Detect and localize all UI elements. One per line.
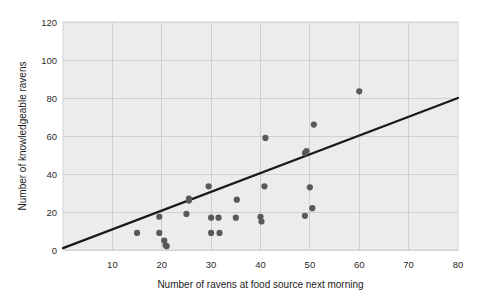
- x-tick-label: 20: [157, 259, 168, 270]
- data-point: [156, 214, 162, 220]
- data-point: [356, 88, 362, 94]
- x-tick-label: 40: [255, 259, 266, 270]
- data-point: [258, 218, 264, 224]
- data-point: [216, 230, 222, 236]
- data-point: [208, 230, 214, 236]
- x-tick-label: 30: [206, 259, 217, 270]
- data-point: [156, 230, 162, 236]
- y-axis-tick-labels: 120 100 80 60 40 20 0: [41, 17, 57, 256]
- data-point: [164, 243, 170, 249]
- y-tick-label: 40: [46, 169, 57, 180]
- scatter-plot-svg: 120 100 80 60 40 20 0 10 20 30 40 50 60 …: [0, 0, 483, 302]
- data-point: [208, 215, 214, 221]
- y-tick-label: 0: [52, 245, 57, 256]
- y-axis-title: Number of knowledgeable ravens: [17, 62, 28, 211]
- data-point: [311, 122, 317, 128]
- data-point: [262, 135, 268, 141]
- data-point: [307, 184, 313, 190]
- data-point: [183, 211, 189, 217]
- data-point: [215, 215, 221, 221]
- data-point: [309, 205, 315, 211]
- data-point: [233, 215, 239, 221]
- x-axis-title: Number of ravens at food source next mor…: [157, 279, 363, 290]
- data-point: [186, 198, 192, 204]
- data-point: [134, 230, 140, 236]
- y-tick-label: 120: [41, 17, 57, 28]
- y-tick-label: 60: [46, 131, 57, 142]
- data-point: [302, 213, 308, 219]
- x-tick-label: 50: [305, 259, 316, 270]
- data-point: [206, 183, 212, 189]
- x-axis-tick-labels: 10 20 30 40 50 60 70 80: [107, 259, 463, 270]
- chart-figure: 120 100 80 60 40 20 0 10 20 30 40 50 60 …: [0, 0, 483, 302]
- data-point: [303, 148, 309, 154]
- y-tick-label: 100: [41, 55, 57, 66]
- x-tick-label: 70: [403, 259, 414, 270]
- x-tick-label: 80: [453, 259, 464, 270]
- y-tick-label: 20: [46, 207, 57, 218]
- x-tick-label: 60: [354, 259, 365, 270]
- x-tick-label: 10: [107, 259, 118, 270]
- y-tick-label: 80: [46, 93, 57, 104]
- data-point: [261, 183, 267, 189]
- data-point: [234, 197, 240, 203]
